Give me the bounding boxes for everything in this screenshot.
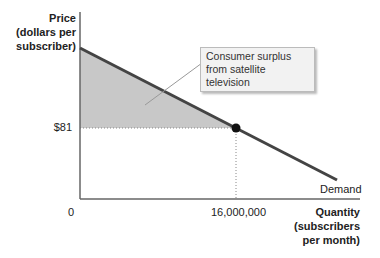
y-axis-label: Price (dollars per subscriber) [0, 11, 76, 53]
x-axis-label: Quantity (subscribers per month) [260, 205, 360, 247]
consumer-surplus-callout: Consumer surplus from satellite televisi… [200, 47, 315, 92]
x-label-line2: (subscribers [260, 219, 360, 233]
price-tick: $81 [30, 121, 72, 133]
x-label-line1: Quantity [260, 205, 360, 219]
equilibrium-point [232, 124, 241, 133]
y-label-line3: subscriber) [0, 39, 76, 53]
callout-line1: Consumer surplus [206, 50, 309, 63]
callout-line2: from satellite television [206, 63, 309, 89]
quantity-tick: 16,000,000 [211, 206, 266, 218]
y-label-line2: (dollars per [0, 25, 76, 39]
origin-label: 0 [68, 206, 74, 218]
demand-label: Demand [320, 183, 362, 195]
y-label-line1: Price [0, 11, 76, 25]
x-label-line3: per month) [260, 233, 360, 247]
